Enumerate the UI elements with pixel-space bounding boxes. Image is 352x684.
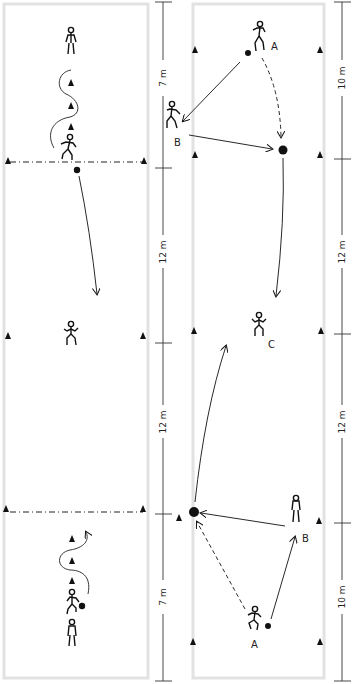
cone-icon xyxy=(140,505,146,512)
cone-icon xyxy=(317,46,323,53)
cone-icon xyxy=(317,638,323,645)
cone-icon xyxy=(141,157,147,164)
player-c-icon xyxy=(252,312,266,336)
right-scale xyxy=(334,2,351,681)
player-label: B xyxy=(302,533,309,544)
pass-arrow xyxy=(189,135,272,149)
player-label: A xyxy=(251,639,258,650)
left-field xyxy=(3,4,148,678)
player-a-icon xyxy=(248,606,261,630)
cone-icon xyxy=(5,332,11,339)
scale-label: 7 m xyxy=(158,588,168,605)
ball-icon xyxy=(279,146,288,155)
ball-icon xyxy=(79,603,85,609)
pass-arrow xyxy=(195,346,226,502)
cone-icon xyxy=(69,535,75,542)
scale-label: 7 m xyxy=(158,69,168,86)
cone-icon xyxy=(69,577,75,584)
ball-icon xyxy=(265,623,271,629)
cone-icon xyxy=(316,517,322,524)
scale-label: 12 m xyxy=(158,410,168,433)
player-label: B xyxy=(174,137,181,148)
pass-arrow xyxy=(79,176,97,294)
ball-icon xyxy=(245,50,251,56)
player-label: A xyxy=(271,41,278,52)
scale-label: 10 m xyxy=(337,585,347,608)
pass-arrow xyxy=(271,537,295,619)
scale-label: 10 m xyxy=(337,66,347,89)
cone-icon xyxy=(190,638,196,645)
ball-icon xyxy=(74,167,80,173)
scale-label: 12 m xyxy=(158,240,168,263)
player-label: C xyxy=(268,339,275,350)
pass-arrow xyxy=(276,158,283,296)
run-arrow xyxy=(262,58,281,137)
right-field-border xyxy=(193,4,324,678)
run-arrow xyxy=(197,522,245,609)
player-dribbling-icon xyxy=(61,134,76,160)
pass-arrow xyxy=(201,513,285,526)
player-b-icon xyxy=(292,495,300,522)
scale-label: 12 m xyxy=(337,410,347,433)
player-dribbling-icon xyxy=(67,589,79,614)
cone-icon xyxy=(317,151,323,158)
drill-diagram: 7 m 12 m 12 m 7 m A xyxy=(0,0,352,684)
cone-icon xyxy=(5,157,11,164)
ball-icon xyxy=(189,507,199,517)
player-a-icon xyxy=(253,21,265,51)
player-b-icon xyxy=(167,101,180,128)
cone-icon xyxy=(68,102,74,109)
cone-icon xyxy=(69,557,75,564)
cone-icon xyxy=(68,123,74,130)
player-icon xyxy=(66,27,76,54)
scale-label: 12 m xyxy=(337,240,347,263)
cone-icon xyxy=(68,79,74,86)
player-icon xyxy=(64,321,78,345)
cone-icon xyxy=(140,332,146,339)
cone-icon xyxy=(176,514,182,521)
right-field: A B C xyxy=(167,4,324,678)
player-icon xyxy=(68,619,76,646)
